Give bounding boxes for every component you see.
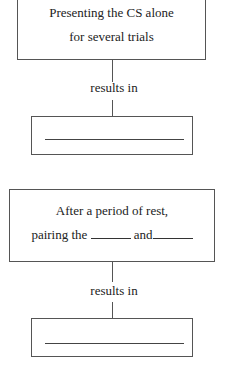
step-text-line2: pairing the and [10, 227, 214, 243]
answer-box-1 [31, 116, 193, 155]
connector-line [112, 100, 113, 116]
blank-stimulus-1[interactable] [91, 238, 131, 239]
step-box-rest-pairing: After a period of rest, pairing the and [9, 189, 215, 262]
step-text-line1: After a period of rest, [10, 203, 214, 219]
pairing-text: pairing the [31, 227, 87, 242]
step-box-cs-alone: Presenting the CS alone for several tria… [17, 0, 206, 60]
answer-blank-1[interactable] [45, 139, 184, 140]
connector-line [112, 60, 113, 82]
connector-label: results in [0, 80, 228, 96]
connector-line [112, 262, 113, 282]
step-text-line2: for several trials [18, 29, 205, 45]
and-text: and [134, 227, 153, 242]
answer-box-2 [31, 318, 193, 357]
blank-stimulus-2[interactable] [153, 238, 193, 239]
step-text-line1: Presenting the CS alone [18, 5, 205, 21]
connector-label: results in [0, 283, 228, 299]
answer-blank-2[interactable] [45, 343, 184, 344]
connector-line [112, 302, 113, 318]
